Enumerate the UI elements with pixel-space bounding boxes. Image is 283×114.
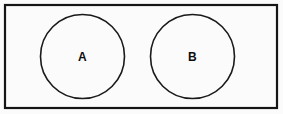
- set-label-a: A: [78, 50, 87, 64]
- venn-diagram-canvas: A B: [0, 0, 283, 114]
- set-label-b: B: [188, 50, 197, 64]
- universal-set-rectangle: [5, 5, 277, 108]
- venn-diagram: A B: [0, 0, 283, 114]
